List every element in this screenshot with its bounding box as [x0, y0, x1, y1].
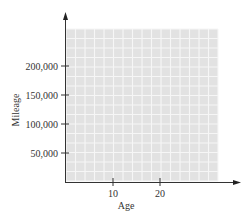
x-tick-label: 10 — [108, 188, 118, 199]
x-axis-arrow-icon — [233, 180, 241, 185]
y-tick-label: 200,000 — [26, 61, 59, 72]
x-tick-label: 20 — [155, 188, 165, 199]
y-axis-label: Mileage — [10, 93, 21, 126]
y-tick-label: 50,000 — [31, 148, 59, 159]
x-axis-label: Age — [118, 200, 135, 211]
y-tick-label: 100,000 — [26, 119, 59, 130]
y-axis-arrow-icon — [63, 12, 68, 20]
y-ticks: 50,000100,000150,000200,000 — [26, 61, 70, 159]
chart-canvas: 50,000100,000150,000200,000 1020 Age Mil… — [0, 0, 244, 224]
y-tick-label: 150,000 — [26, 90, 59, 101]
